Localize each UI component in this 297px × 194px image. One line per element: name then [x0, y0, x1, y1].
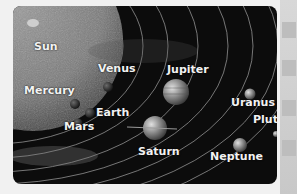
venus-body [103, 82, 113, 92]
solar-system-diagram: Sun Venus Jupiter Mercury Earth Mars Ura… [13, 6, 277, 184]
label-jupiter: Jupiter [167, 63, 209, 76]
label-earth: Earth [96, 106, 129, 119]
label-sun: Sun [34, 40, 58, 53]
pluto-body [273, 131, 277, 137]
mercury-body [70, 99, 80, 109]
label-saturn: Saturn [138, 145, 180, 158]
label-neptune: Neptune [210, 150, 263, 163]
jupiter-body [163, 79, 189, 105]
label-pluto: Pluto [253, 113, 277, 126]
label-venus: Venus [98, 62, 136, 75]
earth-body [85, 108, 95, 118]
side-strip [280, 0, 297, 194]
strip-tab [282, 100, 296, 116]
label-uranus: Uranus [231, 96, 275, 109]
strip-tab [282, 60, 296, 76]
strip-tab [282, 140, 296, 156]
label-mars: Mars [64, 120, 94, 133]
strip-tab [282, 22, 296, 38]
label-mercury: Mercury [24, 84, 75, 97]
